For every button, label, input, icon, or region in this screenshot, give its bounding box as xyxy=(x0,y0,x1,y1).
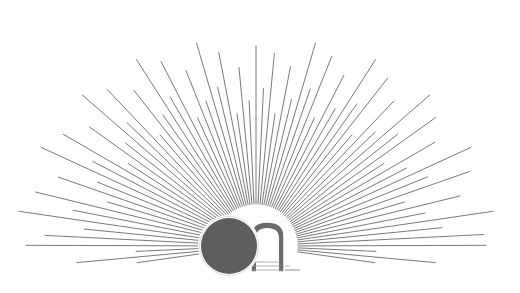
sunburst-tomb-illustration xyxy=(0,0,520,293)
sunburst-ray xyxy=(26,245,214,246)
sunburst-ray xyxy=(298,245,486,246)
rolled-stone-icon xyxy=(198,215,260,277)
